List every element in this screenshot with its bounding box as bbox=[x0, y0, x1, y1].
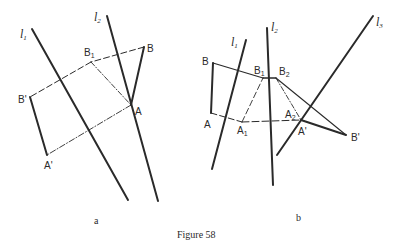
label-B1: B1 bbox=[254, 65, 265, 77]
label-Ap: A' bbox=[298, 126, 307, 137]
dashed-A1-B1 bbox=[242, 78, 263, 122]
dashdot-A-Ap bbox=[47, 105, 131, 155]
label-Ap: A' bbox=[44, 160, 53, 171]
label-A1: A1 bbox=[237, 125, 248, 137]
figure-caption: Figure 58 bbox=[177, 229, 216, 240]
label-Bp: B' bbox=[18, 94, 27, 105]
label-A: A bbox=[135, 106, 142, 117]
label-B: B bbox=[147, 43, 154, 54]
dashed-B-B1 bbox=[91, 47, 144, 62]
label-Bp: B' bbox=[351, 132, 360, 143]
segment-B2-Bp bbox=[276, 78, 346, 135]
label-l2: l2 bbox=[94, 10, 101, 25]
figure-58-diagram: l1 l2 B1 B A B' A' a l1 l2 l3 B A B1 bbox=[0, 0, 406, 249]
segment-AB bbox=[131, 47, 144, 105]
panel-b-label: b bbox=[296, 212, 301, 223]
label-B2: B2 bbox=[279, 66, 290, 78]
panel-b-labels: l1 l2 l3 B A B1 B2 A1 A2 A' B' b bbox=[202, 15, 383, 223]
segment-BpAp bbox=[30, 97, 47, 155]
line-l2 bbox=[267, 28, 273, 185]
segment-AB bbox=[211, 63, 213, 113]
label-B1: B1 bbox=[84, 47, 95, 59]
label-B: B bbox=[202, 56, 209, 67]
segment-Ap-Bp bbox=[301, 120, 346, 135]
label-l2: l2 bbox=[271, 20, 278, 35]
label-l1: l1 bbox=[20, 27, 27, 42]
label-l3: l3 bbox=[376, 15, 383, 30]
panel-a-label: a bbox=[94, 215, 99, 226]
line-l1 bbox=[32, 29, 128, 200]
label-A2: A2 bbox=[285, 109, 296, 121]
label-l1: l1 bbox=[231, 35, 238, 50]
line-l1 bbox=[212, 40, 246, 169]
label-A: A bbox=[204, 119, 211, 130]
